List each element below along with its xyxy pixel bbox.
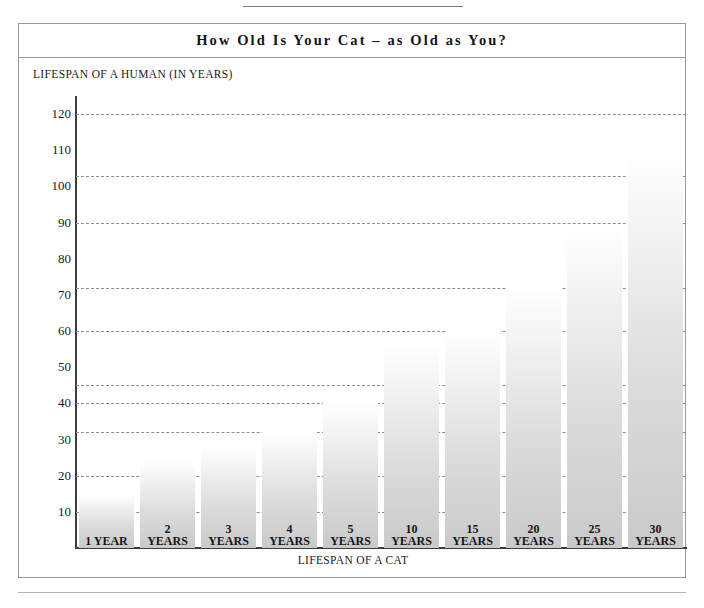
bars-group (76, 96, 686, 548)
top-divider (243, 6, 463, 7)
x-tick-unit: YEARS (262, 535, 317, 548)
y-tick-label: 10 (31, 504, 71, 520)
chart-card: How Old Is Your Cat – as Old as You? LIF… (18, 23, 686, 578)
x-tick-unit: YEARS (201, 535, 256, 548)
x-tick-label: 2YEARS (140, 523, 195, 548)
x-tick-label: 5YEARS (323, 523, 378, 548)
x-tick-unit: YEARS (140, 535, 195, 548)
y-tick-label: 60 (31, 323, 71, 339)
x-tick-unit: YEARS (384, 535, 439, 548)
x-tick-label: 30YEARS (628, 523, 683, 548)
bar (567, 226, 622, 548)
x-tick-unit: 1 YEAR (79, 535, 134, 548)
bottom-divider (18, 592, 686, 593)
y-tick-label: 70 (31, 287, 71, 303)
y-axis-ticks: 120110100908070605040302010 (27, 24, 71, 579)
x-tick-label: 10YEARS (384, 523, 439, 548)
x-tick-unit: YEARS (445, 535, 500, 548)
chart-page: How Old Is Your Cat – as Old as You? LIF… (0, 0, 704, 608)
bar (628, 150, 683, 548)
x-axis-labels: 1 YEAR2YEARS3YEARS4YEARS5YEARS10YEARS15Y… (76, 512, 686, 548)
x-tick-label: 4YEARS (262, 523, 317, 548)
y-tick-label: 50 (31, 359, 71, 375)
bar (506, 288, 561, 548)
x-tick-label: 1 YEAR (79, 535, 134, 548)
y-tick-label: 120 (31, 106, 71, 122)
y-tick-label: 40 (31, 395, 71, 411)
x-axis-caption: LIFESPAN OF A CAT (19, 554, 687, 566)
x-tick-unit: YEARS (628, 535, 683, 548)
x-tick-unit: YEARS (506, 535, 561, 548)
plot-area: 120110100908070605040302010 1 YEAR2YEARS… (19, 24, 687, 579)
x-tick-label: 3YEARS (201, 523, 256, 548)
x-tick-unit: YEARS (323, 535, 378, 548)
y-tick-label: 90 (31, 215, 71, 231)
x-tick-label: 20YEARS (506, 523, 561, 548)
y-tick-label: 100 (31, 178, 71, 194)
y-tick-label: 30 (31, 432, 71, 448)
y-tick-label: 110 (31, 142, 71, 158)
x-tick-unit: YEARS (567, 535, 622, 548)
y-tick-label: 80 (31, 251, 71, 267)
x-tick-label: 25YEARS (567, 523, 622, 548)
x-tick-label: 15YEARS (445, 523, 500, 548)
y-tick-label: 20 (31, 468, 71, 484)
